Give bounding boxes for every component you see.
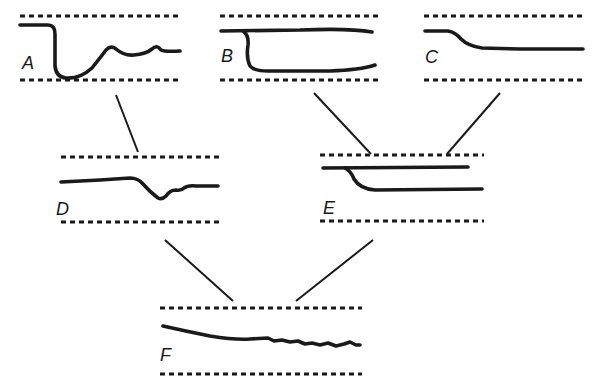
edge-c-to-e <box>447 93 500 154</box>
trace-f <box>163 326 360 346</box>
panel-c: C <box>424 16 583 80</box>
trace-e-bottom <box>345 168 482 190</box>
panel-label: A <box>21 53 34 73</box>
panel-label: D <box>56 199 69 219</box>
edge-d-to-f <box>165 240 233 301</box>
trace-a <box>20 25 180 78</box>
panel-label: E <box>323 198 336 218</box>
edge-e-to-f <box>296 240 373 301</box>
panel-label: F <box>160 345 172 365</box>
panel-e: E <box>320 155 484 221</box>
trace-b-bottom <box>243 31 375 71</box>
trace-d <box>61 178 218 199</box>
panel-d: D <box>56 157 220 222</box>
panel-label: B <box>221 46 233 66</box>
panel-f: F <box>160 308 362 374</box>
panel-a: A <box>20 16 180 80</box>
trace-diagram: A B C D E F <box>0 0 601 388</box>
panel-label: C <box>425 47 439 67</box>
panel-b: B <box>220 16 382 80</box>
edge-a-to-d <box>116 95 138 152</box>
edge-b-to-e <box>314 93 371 154</box>
trace-c <box>425 31 583 49</box>
